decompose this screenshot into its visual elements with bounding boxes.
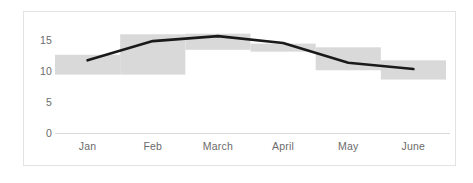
y-tick-5: 5 <box>26 96 52 108</box>
x-tick-jan: Jan <box>53 140 123 152</box>
x-tick-june: June <box>378 140 448 152</box>
x-tick-march: March <box>183 140 253 152</box>
chart-plot-area <box>0 0 473 183</box>
y-tick-10: 10 <box>26 65 52 77</box>
bar-jan <box>55 55 120 75</box>
bar-may <box>316 47 381 70</box>
y-tick-15: 15 <box>26 34 52 46</box>
x-tick-may: May <box>313 140 383 152</box>
x-tick-april: April <box>248 140 318 152</box>
x-tick-feb: Feb <box>118 140 188 152</box>
y-tick-0: 0 <box>26 127 52 139</box>
